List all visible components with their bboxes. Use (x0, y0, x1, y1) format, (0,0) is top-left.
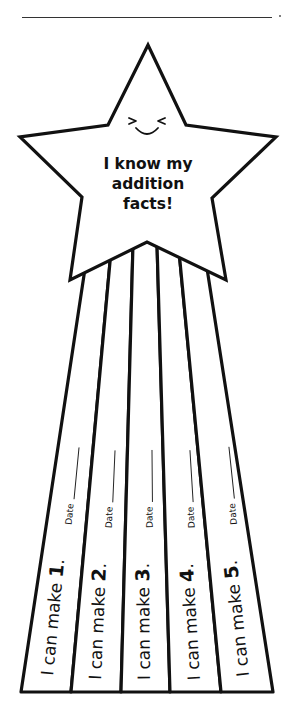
strip-2-suffix: . (90, 562, 110, 568)
strip-3-date-label: Date (144, 506, 154, 528)
strip-3-suffix: . (133, 563, 153, 569)
star-title-line-1: I know my (103, 155, 192, 173)
strip-3-prefix: I can make (133, 582, 154, 681)
strip-4-date-label: Date (185, 506, 196, 529)
star-title-line-3: facts! (123, 195, 173, 213)
strip-4-number: 4 (175, 568, 198, 583)
strip-3-number: 3 (131, 568, 153, 581)
star-banner-artwork: I know my addition facts! I can make 1. … (0, 0, 296, 710)
svg-text:I can make 3.: I can make 3. (131, 563, 154, 680)
strip-2-number: 2 (87, 568, 110, 582)
strip-1-date-label: Date (64, 502, 76, 525)
strip-2-date-label: Date (104, 506, 115, 528)
star-title-line-2: addition (112, 175, 184, 193)
